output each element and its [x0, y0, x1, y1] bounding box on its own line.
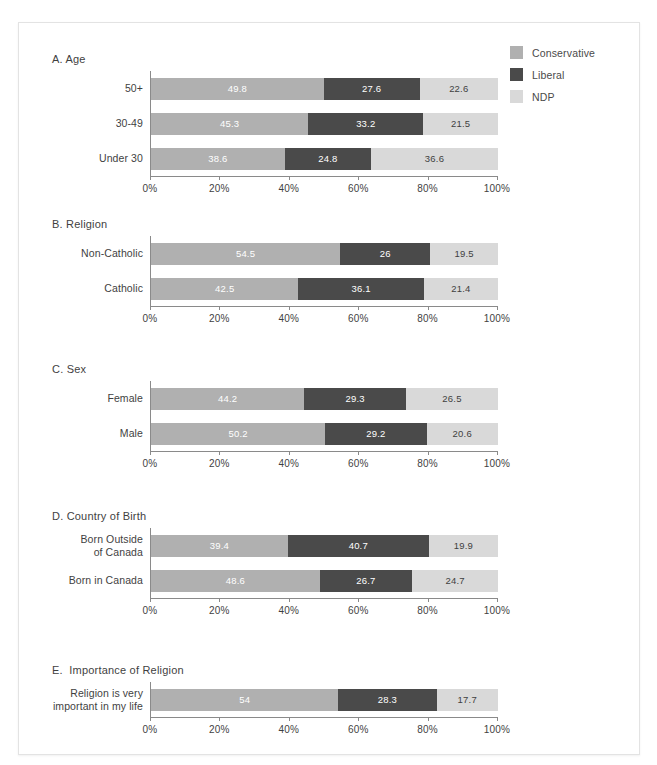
x-axis-tick-label: 20% — [209, 313, 230, 324]
bar-segment-value: 24.7 — [445, 575, 464, 586]
x-axis-tick — [150, 451, 151, 455]
bar-segment-liberal[interactable]: 33.2 — [308, 113, 423, 135]
bar-segment-value: 27.6 — [362, 83, 381, 94]
bar-segment-ndp[interactable]: 19.5 — [430, 243, 498, 265]
bar-segment-liberal[interactable]: 27.6 — [324, 78, 420, 100]
bar-segment-value: 50.2 — [228, 428, 247, 439]
x-axis-tick-label: 60% — [348, 724, 369, 735]
bar-row-label: 50+ — [19, 82, 143, 95]
bar-row[interactable]: Male50.229.220.6 — [19, 423, 639, 445]
bar-segment-conservative[interactable]: 48.6 — [151, 570, 320, 592]
stacked-bar[interactable]: 38.624.836.6 — [151, 148, 498, 170]
bar-segment-value: 28.3 — [378, 694, 397, 705]
x-axis-tick-label: 40% — [278, 458, 299, 469]
bar-segment-liberal[interactable]: 36.1 — [298, 278, 423, 300]
bar-segment-conservative[interactable]: 39.4 — [151, 535, 288, 557]
stacked-bar[interactable]: 44.229.326.5 — [151, 388, 498, 410]
stacked-bar[interactable]: 49.827.622.6 — [151, 78, 498, 100]
bar-segment-value: 54 — [239, 694, 250, 705]
x-axis-tick-label: 80% — [417, 605, 438, 616]
stacked-bar[interactable]: 50.229.220.6 — [151, 423, 498, 445]
panel-title: E. Importance of Religion — [52, 664, 184, 676]
bar-segment-value: 26 — [380, 248, 391, 259]
bar-segment-value: 21.5 — [451, 118, 470, 129]
x-axis-line: 0%20%40%60%80%100% — [150, 176, 498, 177]
bar-segment-ndp[interactable]: 24.7 — [412, 570, 498, 592]
x-axis-tick-label: 20% — [209, 605, 230, 616]
bar-row-label: Under 30 — [19, 152, 143, 165]
stacked-bar[interactable]: 54.52619.5 — [151, 243, 498, 265]
bar-segment-value: 48.6 — [226, 575, 245, 586]
bar-segment-conservative[interactable]: 38.6 — [151, 148, 285, 170]
x-axis-tick — [497, 176, 498, 180]
bar-row-label: Religion is veryimportant in my life — [19, 687, 143, 712]
x-axis-tick — [428, 717, 429, 721]
bar-segment-value: 49.8 — [228, 83, 247, 94]
bar-segment-liberal[interactable]: 24.8 — [285, 148, 371, 170]
figure-frame: ConservativeLiberalNDP A. Age50+49.827.6… — [18, 22, 640, 755]
bar-segment-value: 24.8 — [318, 153, 337, 164]
bar-row[interactable]: Female44.229.326.5 — [19, 388, 639, 410]
x-axis-tick — [358, 598, 359, 602]
bar-segment-ndp[interactable]: 21.5 — [423, 113, 498, 135]
x-axis-tick — [428, 451, 429, 455]
bar-row-label: Male — [19, 427, 143, 440]
stacked-bar[interactable]: 39.440.719.9 — [151, 535, 498, 557]
x-axis-tick-label: 100% — [484, 183, 510, 194]
x-axis-tick — [358, 306, 359, 310]
bar-segment-ndp[interactable]: 36.6 — [371, 148, 498, 170]
bar-segment-ndp[interactable]: 26.5 — [406, 388, 498, 410]
panel-title: D. Country of Birth — [52, 510, 146, 522]
x-axis-tick-label: 80% — [417, 724, 438, 735]
bar-segment-conservative[interactable]: 45.3 — [151, 113, 308, 135]
bar-row[interactable]: 30-4945.333.221.5 — [19, 113, 639, 135]
bar-segment-conservative[interactable]: 44.2 — [151, 388, 304, 410]
x-axis-tick — [289, 176, 290, 180]
stacked-bar[interactable]: 48.626.724.7 — [151, 570, 498, 592]
bar-segment-conservative[interactable]: 42.5 — [151, 278, 298, 300]
panel-title: B. Religion — [52, 218, 107, 230]
x-axis-tick-label: 60% — [348, 313, 369, 324]
bar-row[interactable]: Non-Catholic54.52619.5 — [19, 243, 639, 265]
bar-segment-liberal[interactable]: 28.3 — [338, 689, 436, 711]
bar-segment-ndp[interactable]: 21.4 — [424, 278, 498, 300]
legend-item[interactable]: Conservative — [510, 43, 635, 62]
bar-segment-value: 19.5 — [455, 248, 474, 259]
x-axis-tick — [289, 717, 290, 721]
bar-segment-ndp[interactable]: 22.6 — [420, 78, 498, 100]
bar-row[interactable]: Catholic42.536.121.4 — [19, 278, 639, 300]
bar-row[interactable]: Under 3038.624.836.6 — [19, 148, 639, 170]
bar-row[interactable]: Religion is veryimportant in my life5428… — [19, 689, 639, 711]
x-axis-tick — [219, 176, 220, 180]
bar-segment-value: 19.9 — [454, 540, 473, 551]
bar-segment-liberal[interactable]: 26 — [340, 243, 430, 265]
bar-segment-value: 20.6 — [453, 428, 472, 439]
bar-segment-conservative[interactable]: 54 — [151, 689, 338, 711]
bar-segment-liberal[interactable]: 40.7 — [288, 535, 429, 557]
x-axis-tick — [289, 306, 290, 310]
bar-segment-liberal[interactable]: 26.7 — [320, 570, 413, 592]
bar-row[interactable]: Born in Canada48.626.724.7 — [19, 570, 639, 592]
bar-row[interactable]: Born Outsideof Canada39.440.719.9 — [19, 535, 639, 557]
bar-row[interactable]: 50+49.827.622.6 — [19, 78, 639, 100]
bar-segment-ndp[interactable]: 17.7 — [437, 689, 498, 711]
x-axis-tick — [497, 451, 498, 455]
bar-segment-ndp[interactable]: 19.9 — [429, 535, 498, 557]
bar-segment-liberal[interactable]: 29.3 — [304, 388, 406, 410]
stacked-bar[interactable]: 5428.317.7 — [151, 689, 498, 711]
x-axis-tick — [358, 717, 359, 721]
x-axis-line: 0%20%40%60%80%100% — [150, 717, 498, 718]
bar-segment-liberal[interactable]: 29.2 — [325, 423, 426, 445]
panel-title: A. Age — [52, 53, 86, 65]
bar-segment-conservative[interactable]: 49.8 — [151, 78, 324, 100]
x-axis-tick — [150, 598, 151, 602]
bar-segment-ndp[interactable]: 20.6 — [427, 423, 498, 445]
x-axis-tick — [358, 451, 359, 455]
bar-segment-value: 26.7 — [356, 575, 375, 586]
x-axis-tick-label: 40% — [278, 313, 299, 324]
bar-segment-conservative[interactable]: 50.2 — [151, 423, 325, 445]
bar-segment-conservative[interactable]: 54.5 — [151, 243, 340, 265]
x-axis-tick-label: 60% — [348, 605, 369, 616]
stacked-bar[interactable]: 42.536.121.4 — [151, 278, 498, 300]
stacked-bar[interactable]: 45.333.221.5 — [151, 113, 498, 135]
